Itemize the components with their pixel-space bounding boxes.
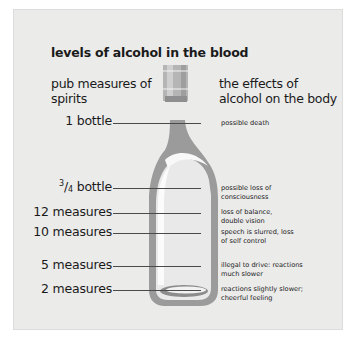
leader-line [113, 266, 201, 267]
leader-line [113, 213, 201, 214]
fraction-denominator: 4 [68, 185, 73, 194]
effect-label-loss-of-balance: loss of balance, double vision [221, 208, 291, 226]
effect-label-illegal-to-drive: illegal to drive: reactions much slower [221, 261, 311, 279]
leader-line [113, 123, 201, 124]
effect-label-loss-of-consciousness: possible loss of consciousness [221, 184, 291, 202]
measure-label-12-measures: 12 measures [33, 204, 112, 219]
effect-label-possible-death: possible death [221, 119, 331, 128]
measure-unit: bottle [77, 179, 112, 194]
measure-label-three-quarter-bottle: 3/4 bottle [59, 179, 112, 194]
measure-label-10-measures: 10 measures [33, 224, 112, 239]
bottle-cap-icon [163, 65, 188, 102]
measure-label-1-bottle: 1 bottle [65, 113, 112, 128]
effect-label-reactions-slower: reactions slightly slower; cheerful feel… [221, 285, 311, 303]
leader-line [113, 188, 201, 189]
effect-label-speech-slurred: speech is slurred, loss of self control [221, 228, 296, 246]
measure-label-5-measures: 5 measures [41, 257, 112, 272]
fraction-numerator: 3 [59, 179, 64, 188]
leader-line [113, 233, 201, 234]
measure-label-2-measures: 2 measures [41, 281, 112, 296]
leader-line [113, 290, 201, 291]
